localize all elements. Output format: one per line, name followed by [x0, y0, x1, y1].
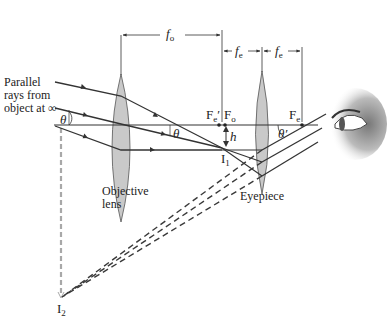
ray-diagram-svg [0, 0, 389, 321]
theta-mid-label: θ [173, 127, 179, 140]
I1-sub: 1 [225, 158, 230, 168]
incoming-rays [55, 82, 222, 150]
theta-left-label: θ [60, 113, 66, 126]
Fe-prime-sub: e [213, 114, 217, 124]
objective-lens-label: Objective lens [102, 185, 149, 211]
focal-point-Fe [300, 123, 304, 127]
eye-icon [323, 88, 387, 160]
fe2-sub: e [279, 50, 283, 60]
virtual-ray-extensions [62, 150, 262, 297]
Fe-prime-label: Fe′ [206, 108, 220, 121]
I1-label: I1 [221, 152, 230, 165]
fe-right-label: fe [275, 44, 283, 57]
Fe-label: Fe [289, 108, 300, 121]
fe1-sub: e [239, 50, 243, 60]
I2-label: I2 [57, 302, 66, 315]
objective-line2: lens [102, 198, 149, 211]
Fo-sub: o [231, 114, 236, 124]
fo-sub: o [170, 33, 175, 43]
parallel-rays-line3: object at ∞ [4, 102, 57, 115]
parallel-rays-label: Parallel rays from object at ∞ [4, 76, 57, 115]
Fe-prime-mark: ′ [217, 107, 220, 122]
focal-point-Fe-prime [217, 123, 221, 127]
outgoing-rays [262, 114, 326, 176]
fo-label: fo [166, 27, 174, 40]
Fe-sub: e [296, 114, 300, 124]
focal-point-Fo [223, 123, 227, 127]
Fo-label: Fo [224, 108, 236, 121]
I2-sub: 2 [61, 308, 66, 318]
eyepiece-label: Eyepiece [240, 190, 284, 203]
telescope-diagram: Parallel rays from object at ∞ Objective… [0, 0, 389, 321]
fe-left-label: fe [235, 44, 243, 57]
h-label: h [230, 130, 237, 143]
theta-prime-label: θ′ [278, 127, 287, 140]
